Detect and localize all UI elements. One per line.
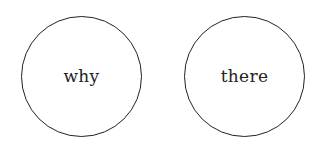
node-there: there: [184, 16, 305, 137]
node-why: why: [21, 16, 142, 137]
node-label-there: there: [221, 66, 269, 86]
node-label-why: why: [63, 66, 99, 86]
